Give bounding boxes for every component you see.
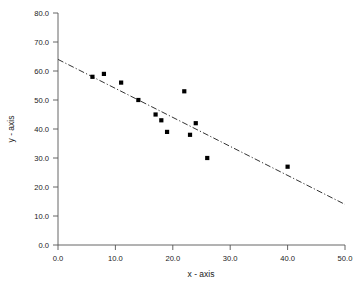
data-point-marker (159, 118, 163, 122)
x-tick-label: 40.0 (280, 254, 295, 263)
x-tick-label: 30.0 (223, 254, 238, 263)
y-tick-label: 60.0 (34, 67, 49, 76)
plot-canvas: 0.010.020.030.040.050.060.070.080.0 0.01… (0, 0, 355, 288)
data-point-marker (153, 112, 157, 116)
y-tick-label: 20.0 (34, 183, 49, 192)
data-point-marker (194, 121, 198, 125)
data-point-marker (136, 98, 140, 102)
data-point-marker (90, 75, 94, 79)
y-tick-label: 50.0 (34, 96, 49, 105)
data-point-marker (205, 156, 209, 160)
data-point-marker (119, 81, 123, 85)
data-point-marker (102, 72, 106, 76)
x-tick-label: 0.0 (53, 254, 64, 263)
data-point-marker (286, 165, 290, 169)
y-tick-label: 10.0 (34, 212, 49, 221)
data-point-marker (182, 89, 186, 93)
y-tick-label: 30.0 (34, 154, 49, 163)
scatter-plot-figure: 0.010.020.030.040.050.060.070.080.0 0.01… (0, 0, 355, 288)
x-axis-label: x - axis (188, 269, 215, 279)
y-tick-label: 70.0 (34, 38, 49, 47)
x-tick-label: 50.0 (338, 254, 353, 263)
y-tick-label: 80.0 (34, 9, 49, 18)
data-point-marker (188, 133, 192, 137)
data-point-marker (165, 130, 169, 134)
y-tick-label: 40.0 (34, 125, 49, 134)
x-tick-label: 10.0 (108, 254, 123, 263)
y-tick-label: 0.0 (38, 241, 49, 250)
x-tick-label: 20.0 (165, 254, 180, 263)
y-axis-label: y - axis (6, 116, 16, 143)
